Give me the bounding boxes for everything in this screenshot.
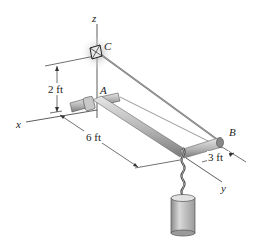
dimension-6ft-label: 6 ft [86,131,101,143]
x-axis: x [15,110,97,130]
dimension-2ft-label: 2 ft [48,83,63,95]
point-a-label: A [99,84,107,96]
point-b-label: B [229,126,236,138]
pipe-ab: A B [70,84,236,158]
z-axis-label: z [91,12,97,24]
dimension-3ft-label: 3 ft [208,151,223,163]
weight-cylinder [171,195,195,237]
y-axis: y [186,158,226,194]
rope [182,148,185,196]
dimension-2ft: 2 ft [46,66,68,113]
point-c-label: C [104,40,112,52]
x-axis-label: x [15,118,21,130]
y-axis-label: y [220,182,226,194]
statics-diagram: z x y C 2 ft [0,0,263,240]
